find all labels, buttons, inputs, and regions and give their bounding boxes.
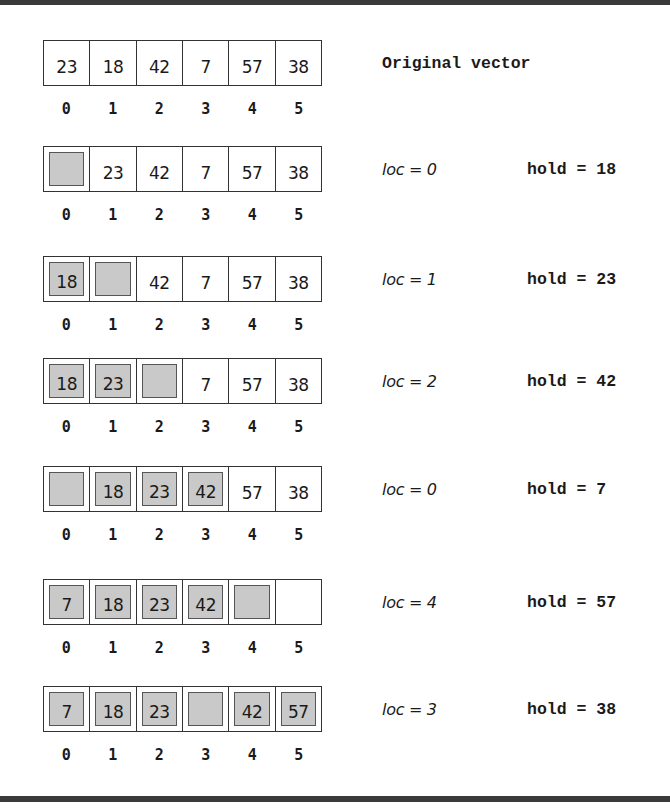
index-label: 0: [43, 316, 90, 334]
vector-cell-shaded: 23: [136, 580, 182, 624]
vector-array: 234275738: [43, 146, 322, 192]
vector-cell-shaded: 18: [44, 257, 89, 301]
index-label: 3: [183, 526, 230, 544]
index-label: 2: [136, 100, 183, 118]
index-label: 0: [43, 746, 90, 764]
vector-cell: 57: [228, 41, 274, 85]
vector-cell-shaded: 18: [89, 467, 135, 511]
vector-cell: 7: [182, 41, 228, 85]
hold-annotation: hold = 42: [527, 372, 616, 391]
vector-cell: 57: [228, 257, 274, 301]
vector-cell: 57: [228, 359, 274, 403]
index-label: 5: [276, 316, 323, 334]
cell-value: 57: [242, 485, 263, 511]
vector-cell: [275, 580, 321, 624]
hold-annotation: hold = 23: [527, 270, 616, 289]
index-label: 1: [90, 746, 137, 764]
index-label: 1: [90, 316, 137, 334]
index-label: 0: [43, 206, 90, 224]
vector-cell-shaded: 23: [136, 467, 182, 511]
cell-value: 18: [103, 704, 124, 731]
index-label: 5: [276, 639, 323, 657]
index-label: 5: [276, 100, 323, 118]
index-label: 0: [43, 639, 90, 657]
index-label: 4: [229, 100, 276, 118]
vector-cell: 38: [275, 467, 321, 511]
index-label: 0: [43, 418, 90, 436]
loc-annotation: loc = 2: [382, 372, 437, 391]
vector-cell-shaded: 42: [182, 467, 228, 511]
shaded-slot: [142, 364, 177, 398]
loc-annotation: loc = 1: [382, 270, 437, 289]
cell-value: 23: [103, 376, 124, 403]
index-label: 3: [183, 206, 230, 224]
vector-cell-shaded: 7: [44, 687, 89, 731]
hold-annotation: hold = 18: [527, 160, 616, 179]
cell-value: 7: [200, 275, 210, 301]
shaded-slot: [188, 692, 223, 726]
cell-value: 38: [288, 377, 309, 403]
index-label: 3: [183, 418, 230, 436]
index-labels: 012345: [43, 526, 322, 544]
vector-cell: 42: [136, 41, 182, 85]
vector-step-row: 182375738012345loc = 2hold = 42: [0, 358, 670, 458]
shaded-slot: [49, 152, 84, 186]
vector-cell: 23: [89, 147, 135, 191]
index-labels: 012345: [43, 316, 322, 334]
vector-step-row: 234275738012345loc = 0hold = 18: [0, 146, 670, 246]
cell-value: 23: [149, 704, 170, 731]
cell-value: 7: [62, 597, 72, 624]
index-labels: 012345: [43, 746, 322, 764]
vector-cell-shaded: 23: [136, 687, 182, 731]
index-label: 4: [229, 746, 276, 764]
index-labels: 012345: [43, 206, 322, 224]
index-labels: 012345: [43, 418, 322, 436]
vector-cell: 57: [228, 467, 274, 511]
index-labels: 012345: [43, 100, 322, 118]
hold-annotation: hold = 7: [527, 480, 606, 499]
vector-array: 23184275738: [43, 40, 322, 86]
top-frame-border: [0, 0, 670, 5]
index-label: 1: [90, 418, 137, 436]
index-label: 2: [136, 206, 183, 224]
shaded-slot: [49, 472, 84, 506]
index-label: 5: [276, 526, 323, 544]
vector-step-row: 184275738012345loc = 1hold = 23: [0, 256, 670, 356]
cell-value: 42: [149, 275, 170, 301]
cell-value: 23: [103, 165, 124, 191]
vector-cell: 7: [182, 359, 228, 403]
cell-value: 7: [200, 377, 210, 403]
cell-value: 57: [288, 704, 309, 731]
vector-cell: 38: [275, 41, 321, 85]
vector-array: 182375738: [43, 358, 322, 404]
index-label: 2: [136, 746, 183, 764]
vector-cell-shaded: [136, 359, 182, 403]
loc-annotation: loc = 0: [382, 480, 437, 499]
index-label: 1: [90, 100, 137, 118]
index-label: 4: [229, 526, 276, 544]
vector-cell-shaded: 57: [275, 687, 321, 731]
vector-cell-shaded: 18: [44, 359, 89, 403]
index-label: 5: [276, 746, 323, 764]
shaded-slot: [95, 262, 130, 296]
cell-value: 18: [103, 597, 124, 624]
vector-array: 184275738: [43, 256, 322, 302]
cell-value: 18: [56, 376, 77, 403]
vector-cell: 7: [182, 257, 228, 301]
cell-value: 38: [288, 165, 309, 191]
index-label: 3: [183, 316, 230, 334]
vector-array: 7182342: [43, 579, 322, 625]
cell-value: 42: [149, 59, 170, 85]
cell-value: 57: [242, 165, 263, 191]
vector-cell: 7: [182, 147, 228, 191]
loc-annotation: loc = 3: [382, 700, 437, 719]
cell-value: 42: [242, 704, 263, 731]
index-label: 2: [136, 639, 183, 657]
vector-cell-shaded: [44, 147, 89, 191]
vector-cell: 23: [44, 41, 89, 85]
index-label: 2: [136, 418, 183, 436]
index-label: 4: [229, 316, 276, 334]
cell-value: 38: [288, 485, 309, 511]
cell-value: 42: [149, 165, 170, 191]
index-label: 4: [229, 206, 276, 224]
